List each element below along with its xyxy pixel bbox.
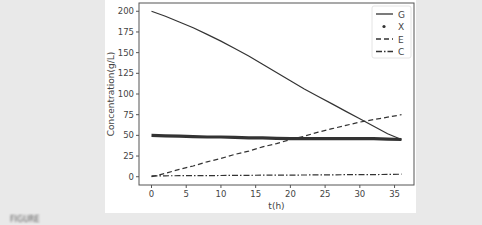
legend-label-X: X <box>398 22 404 32</box>
legend-label-E: E <box>398 35 404 45</box>
y-tick-label: 25 <box>123 151 134 161</box>
x-tick-label: 30 <box>354 189 365 199</box>
figure-caption: FIGURE <box>10 215 470 225</box>
legend-marker-X <box>382 25 385 28</box>
series-G <box>152 11 402 139</box>
y-axis-label: Concentration(g/L) <box>106 52 116 136</box>
y-tick-label: 150 <box>118 48 134 58</box>
y-tick-label: 50 <box>123 130 134 140</box>
x-axis-label: t(h) <box>268 201 284 211</box>
x-tick-label: 20 <box>285 189 296 199</box>
x-tick-label: 5 <box>184 189 189 199</box>
y-tick-label: 100 <box>118 89 134 99</box>
y-tick-label: 125 <box>118 68 134 78</box>
y-tick-label: 75 <box>123 110 134 120</box>
x-tick-label: 25 <box>320 189 331 199</box>
series-E <box>152 115 402 177</box>
x-tick-label: 0 <box>149 189 154 199</box>
line-chart: 051015202530350255075100125150175200t(h)… <box>105 0 416 213</box>
series-X <box>152 135 402 139</box>
x-tick-label: 35 <box>389 189 400 199</box>
y-tick-label: 175 <box>118 27 134 37</box>
x-tick-label: 10 <box>216 189 227 199</box>
y-tick-label: 200 <box>118 6 134 16</box>
legend-label-C: C <box>398 47 404 57</box>
series-C <box>152 174 402 176</box>
y-tick-label: 0 <box>129 172 134 182</box>
legend-label-G: G <box>398 10 405 20</box>
chart-figure: 051015202530350255075100125150175200t(h)… <box>105 0 416 213</box>
x-tick-label: 15 <box>250 189 261 199</box>
